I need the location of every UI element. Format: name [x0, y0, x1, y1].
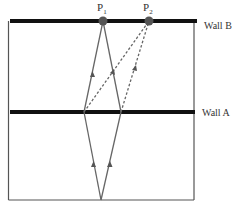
ray-arrow-icons: [90, 71, 113, 167]
p2-label: P2: [143, 1, 153, 16]
wall-b-label: Wall B: [204, 20, 232, 31]
diagram-canvas: [0, 0, 247, 211]
dashed-arrow-icons: [110, 65, 137, 75]
point-p2: [145, 17, 154, 26]
point-p1: [99, 17, 108, 26]
p1-label: P1: [97, 1, 107, 16]
wall-a-label: Wall A: [202, 107, 230, 118]
